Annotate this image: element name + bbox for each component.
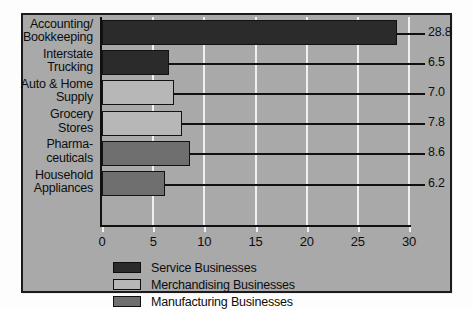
bar: [102, 141, 190, 166]
category-label-line1: Interstate: [43, 47, 93, 61]
category-label-line2: Appliances: [34, 181, 93, 195]
bar-value-label: 6.2: [428, 176, 445, 190]
category-label: HouseholdAppliances: [34, 169, 93, 196]
value-leader-line: [165, 184, 425, 186]
legend-item: Service Businesses: [113, 260, 295, 275]
chart-legend: Service BusinessesMerchandising Business…: [113, 260, 295, 309]
category-label-line2: Trucking: [47, 60, 93, 74]
value-leader-line: [169, 63, 425, 65]
bar-value-label: 7.0: [428, 85, 445, 99]
legend-item: Manufacturing Businesses: [113, 294, 295, 309]
x-axis-tick-label: 5: [133, 234, 173, 249]
legend-label: Service Businesses: [151, 261, 256, 275]
x-axis-tick-label: 15: [236, 234, 276, 249]
bar: [102, 171, 165, 196]
bar-value-label: 7.8: [428, 115, 445, 129]
chart-canvas: 051015202530 Accounting/BookkeepingInter…: [0, 0, 473, 309]
value-leader-line: [174, 93, 425, 95]
x-axis-tick-label: 20: [287, 234, 327, 249]
category-label: GroceryStores: [50, 108, 93, 135]
x-axis-tick-label: 10: [184, 234, 224, 249]
category-label-line1: Household: [35, 168, 93, 182]
legend-swatch: [113, 279, 141, 290]
bar: [102, 111, 182, 136]
category-label: InterstateTrucking: [43, 48, 93, 75]
category-label-line1: Pharma-: [46, 137, 93, 151]
value-leader-line: [190, 153, 425, 155]
category-label-line2: Bookkeeping: [23, 30, 93, 44]
category-label-line2: Supply: [56, 90, 93, 104]
category-label: Accounting/Bookkeeping: [23, 18, 93, 45]
legend-swatch: [113, 262, 141, 273]
x-axis-tick-label: 0: [82, 234, 122, 249]
category-label-line1: Grocery: [50, 107, 93, 121]
category-label-line1: Accounting/: [30, 17, 93, 31]
bar-value-label: 28.8: [428, 25, 452, 39]
legend-item: Merchandising Businesses: [113, 277, 295, 292]
bar-value-label: 6.5: [428, 55, 445, 69]
category-label-line2: Stores: [58, 121, 93, 135]
value-leader-line: [182, 123, 425, 125]
bar: [102, 20, 397, 45]
category-label: Auto & HomeSupply: [21, 78, 93, 105]
category-label-line2: ceuticals: [46, 151, 93, 165]
legend-swatch: [113, 296, 141, 307]
legend-label: Manufacturing Businesses: [151, 295, 293, 309]
category-label: Pharma-ceuticals: [46, 138, 93, 165]
category-label-line1: Auto & Home: [21, 77, 93, 91]
x-axis-tick-label: 30: [389, 234, 429, 249]
bar-value-label: 8.6: [428, 145, 445, 159]
bar: [102, 50, 169, 75]
x-axis-line: [102, 225, 411, 227]
value-leader-line: [397, 33, 425, 35]
x-axis: [102, 225, 411, 227]
chart-panel: 051015202530 Accounting/BookkeepingInter…: [21, 13, 452, 293]
legend-label: Merchandising Businesses: [151, 278, 295, 292]
x-axis-tick-label: 25: [338, 234, 378, 249]
bar: [102, 80, 174, 105]
